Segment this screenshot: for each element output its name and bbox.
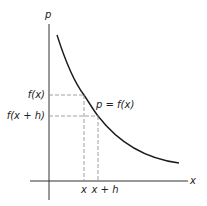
y-axis-label: p bbox=[44, 9, 51, 20]
x-tick-xh: x + h bbox=[91, 184, 119, 195]
y-tick-fxh: f(x + h) bbox=[7, 110, 45, 121]
y-tick-fx: f(x) bbox=[28, 89, 45, 100]
curve-label: p = f(x) bbox=[95, 99, 134, 110]
x-axis-label: x bbox=[189, 175, 196, 186]
diagram-canvas: p x p = f(x) f(x) f(x + h) x x + h bbox=[0, 0, 207, 206]
x-tick-x: x bbox=[80, 184, 87, 195]
